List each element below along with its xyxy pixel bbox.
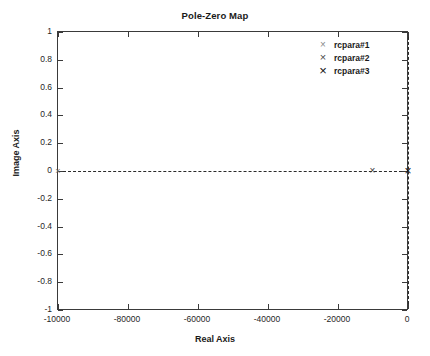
x-axis-tick [268, 32, 269, 37]
y-axis-tick-label: -0.8 [52, 276, 67, 286]
reference-line-horizontal [58, 171, 407, 172]
y-axis-tick-label: -0.6 [52, 248, 67, 258]
x-axis-tick-label: 0 [405, 314, 410, 324]
x-axis-tick [338, 32, 339, 37]
x-axis-tick-label: -80000 [114, 314, 140, 324]
legend-item-label: rcpara#1 [334, 40, 369, 50]
x-axis-label: Real Axis [0, 334, 430, 344]
legend-marker-x-icon: × [312, 40, 334, 50]
y-axis-tick-label: 1 [52, 26, 57, 36]
y-axis-tick [58, 32, 63, 33]
y-axis-tick-label: 0 [52, 165, 57, 175]
x-axis-tick [128, 304, 129, 309]
y-axis-tick-label: 0.2 [52, 137, 64, 147]
y-axis-tick-label: -0.4 [52, 221, 67, 231]
y-axis-tick-label: -0.2 [52, 193, 67, 203]
x-axis-tick [198, 32, 199, 37]
legend-marker-x-icon: × [312, 64, 334, 77]
y-axis-tick [402, 227, 407, 228]
x-axis-tick [338, 304, 339, 309]
y-axis-tick [402, 32, 407, 33]
y-axis-tick [402, 199, 407, 200]
data-point-marker: × [404, 165, 411, 177]
pole-zero-map-figure: Pole-Zero Map ××× -10000-80000-60000-400… [0, 0, 430, 356]
y-axis-tick [402, 310, 407, 311]
legend-item[interactable]: ×rcpara#3 [312, 64, 408, 77]
x-axis-tick [408, 304, 409, 309]
chart-legend: ×rcpara#1×rcpara#2×rcpara#3 [312, 38, 408, 77]
legend-marker-x-icon: × [312, 52, 334, 63]
data-point-marker: × [369, 166, 375, 176]
y-axis-tick [402, 254, 407, 255]
y-axis-tick-label: 0.8 [52, 54, 64, 64]
y-axis-tick-label: 0.4 [52, 109, 64, 119]
x-axis-tick-label: -60000 [184, 314, 210, 324]
y-axis-label: Image Axis [11, 93, 21, 213]
y-axis-tick [402, 88, 407, 89]
x-axis-tick [198, 304, 199, 309]
y-axis-tick-label: 0.6 [52, 82, 64, 92]
x-axis-tick-label: -40000 [254, 314, 280, 324]
x-axis-tick-label: -10000 [44, 314, 70, 324]
legend-item-label: rcpara#3 [334, 66, 369, 76]
chart-title: Pole-Zero Map [0, 10, 430, 21]
x-axis-tick-label: -20000 [324, 314, 350, 324]
x-axis-tick [268, 304, 269, 309]
x-axis-tick [128, 32, 129, 37]
legend-item-label: rcpara#2 [334, 53, 369, 63]
y-axis-tick [402, 115, 407, 116]
y-axis-tick-label: -1 [52, 304, 60, 314]
legend-item[interactable]: ×rcpara#1 [312, 38, 408, 51]
y-axis-tick [402, 143, 407, 144]
y-axis-tick [402, 282, 407, 283]
x-axis-tick [408, 32, 409, 37]
